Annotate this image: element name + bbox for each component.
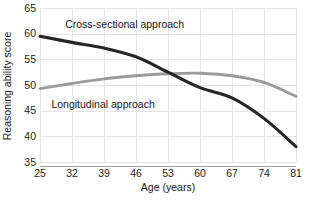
- chart-canvas: 35404550556065 253239465360677481 Age (y…: [0, 0, 309, 205]
- y-axis-title: Reasoning ability score: [1, 32, 13, 141]
- x-tick-label: 53: [162, 167, 174, 179]
- x-tick-label: 74: [258, 167, 270, 179]
- y-tick-label: 40: [24, 130, 36, 142]
- x-tick-label: 81: [290, 167, 302, 179]
- series-annotation-longitudinal: Longitudinal approach: [51, 98, 154, 110]
- y-tick-label: 65: [24, 2, 36, 14]
- series-annotation-cross-sectional: Cross-sectional approach: [65, 18, 184, 30]
- x-tick-label: 60: [194, 167, 206, 179]
- y-tick-label: 45: [24, 104, 36, 116]
- x-axis-tick-labels: 253239465360677481: [34, 167, 302, 179]
- y-tick-label: 50: [24, 79, 36, 91]
- y-tick-label: 55: [24, 53, 36, 65]
- y-tick-label: 35: [24, 156, 36, 168]
- x-tick-label: 32: [66, 167, 78, 179]
- x-tick-label: 39: [98, 167, 110, 179]
- y-tick-label: 60: [24, 27, 36, 39]
- reasoning-ability-line-chart: 35404550556065 253239465360677481 Age (y…: [0, 0, 309, 205]
- x-tick-label: 25: [34, 167, 46, 179]
- x-tick-label: 46: [130, 167, 142, 179]
- x-tick-label: 67: [226, 167, 238, 179]
- x-axis-title: Age (years): [141, 181, 195, 193]
